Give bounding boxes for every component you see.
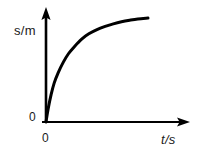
x-axis-label: t/s [161,133,176,146]
x-origin-tick-label: 0 [42,132,49,144]
distance-time-graph-figure: s/m t/s 0 0 [0,0,198,156]
y-axis-label: s/m [14,24,36,37]
y-origin-tick-label: 0 [29,111,36,123]
distance-time-curve [46,18,148,122]
